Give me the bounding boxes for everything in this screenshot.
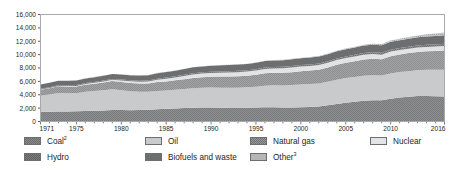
y-tick-label: 14,000 bbox=[16, 24, 37, 31]
legend-item-hydro[interactable]: Hydro bbox=[24, 149, 69, 165]
legend-label: Natural gas bbox=[273, 137, 315, 146]
y-tick-label: 2,000 bbox=[19, 105, 36, 112]
chart-plot-area: 02,0004,0006,0008,00010,00012,00014,0001… bbox=[0, 0, 455, 135]
y-tick-label: 6,000 bbox=[19, 78, 36, 85]
legend-item-natural-gas[interactable]: Natural gas bbox=[250, 133, 315, 149]
y-tick-label: 0 bbox=[32, 118, 36, 125]
legend-item-biofuels-and-waste[interactable]: Biofuels and waste bbox=[145, 149, 237, 165]
legend-label: Nuclear bbox=[393, 137, 421, 146]
legend-swatch-hydro-icon bbox=[24, 153, 41, 162]
x-axis: 1971197519801985199019952000200520102016 bbox=[40, 122, 446, 133]
legend-item-nuclear[interactable]: Nuclear bbox=[370, 133, 421, 149]
x-tick-label: 2016 bbox=[431, 125, 446, 132]
legend-label: Hydro bbox=[47, 153, 69, 162]
x-tick-label: 2010 bbox=[383, 125, 398, 132]
x-tick-label: 2000 bbox=[294, 125, 309, 132]
x-tick-label: 1985 bbox=[159, 125, 174, 132]
legend-label: Coal2 bbox=[47, 137, 67, 146]
x-tick-label: 1980 bbox=[114, 125, 129, 132]
legend-row-1: Coal2OilNatural gasNuclear bbox=[0, 133, 455, 149]
y-tick-label: 12,000 bbox=[16, 38, 37, 45]
legend-item-oil[interactable]: Oil bbox=[145, 133, 178, 149]
legend-swatch-oil-icon bbox=[145, 137, 162, 146]
x-tick-label: 1990 bbox=[204, 125, 219, 132]
legend-footnote-marker: 2 bbox=[64, 135, 67, 141]
legend-row-2: HydroBiofuels and wasteOther3 bbox=[0, 149, 455, 165]
x-tick-label: 1995 bbox=[249, 125, 264, 132]
x-tick-label: 1971 bbox=[40, 125, 55, 132]
legend-swatch-biofuels-and-waste-icon bbox=[145, 153, 162, 162]
legend-swatch-natural-gas-icon bbox=[250, 137, 267, 146]
x-tick-label: 2005 bbox=[338, 125, 353, 132]
legend-swatch-coal-icon bbox=[24, 137, 41, 146]
y-tick-label: 10,000 bbox=[16, 51, 37, 58]
legend-label: Oil bbox=[168, 137, 178, 146]
legend-swatch-other-icon bbox=[250, 153, 267, 162]
legend-swatch-nuclear-icon bbox=[370, 137, 387, 146]
y-tick-label: 16,000 bbox=[16, 11, 37, 18]
legend-label: Biofuels and waste bbox=[168, 153, 237, 162]
y-tick-label: 8,000 bbox=[19, 64, 36, 71]
x-tick-label: 1975 bbox=[69, 125, 84, 132]
y-tick-label: 4,000 bbox=[19, 91, 36, 98]
y-axis: 02,0004,0006,0008,00010,00012,00014,0001… bbox=[16, 11, 41, 125]
chart-legend: Coal2OilNatural gasNuclear HydroBiofuels… bbox=[0, 133, 455, 174]
legend-item-coal[interactable]: Coal2 bbox=[24, 133, 67, 149]
stacked-area-chart-figure: 02,0004,0006,0008,00010,00012,00014,0001… bbox=[0, 0, 455, 174]
legend-item-other[interactable]: Other3 bbox=[250, 149, 296, 165]
legend-footnote-marker: 3 bbox=[293, 151, 296, 157]
legend-label: Other3 bbox=[273, 153, 296, 162]
